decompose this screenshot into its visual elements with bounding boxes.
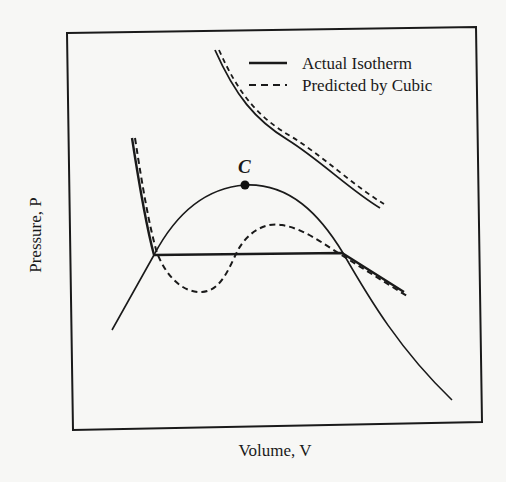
critical-point-label: C <box>238 156 251 177</box>
supercritical-isotherm-actual <box>215 50 380 208</box>
pv-diagram: Actual Isotherm Predicted by Cubic C Pre… <box>0 0 506 482</box>
legend-label-actual: Actual Isotherm <box>302 54 412 73</box>
subcritical-isotherm-cubic <box>135 138 407 296</box>
legend: Actual Isotherm Predicted by Cubic <box>249 54 433 95</box>
x-axis-label: Volume, V <box>238 441 312 460</box>
critical-point-marker <box>241 181 250 190</box>
y-axis-label: Pressure, P <box>26 197 45 273</box>
legend-label-cubic: Predicted by Cubic <box>302 76 433 95</box>
